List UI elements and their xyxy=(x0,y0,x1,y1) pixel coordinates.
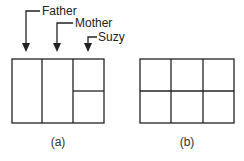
panel-a: Father Mother Suzy (a) xyxy=(12,4,125,149)
label-father: Father xyxy=(42,4,77,18)
box-a xyxy=(12,59,104,123)
label-mother: Mother xyxy=(75,16,112,30)
mother-arrow-icon xyxy=(53,23,73,52)
label-suzy: Suzy xyxy=(98,30,125,44)
box-b xyxy=(140,59,234,123)
caption-b: (b) xyxy=(180,135,195,149)
caption-a: (a) xyxy=(51,135,66,149)
suzy-arrow-icon xyxy=(84,37,97,52)
panel-b: (b) xyxy=(140,59,234,149)
father-arrow-icon xyxy=(22,11,40,52)
diagram-canvas: Father Mother Suzy (a) (b) xyxy=(0,0,244,161)
